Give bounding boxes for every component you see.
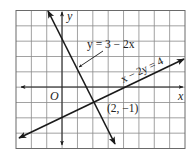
line-1-label: y = 3 − 2x bbox=[87, 38, 135, 51]
x-axis-label: x bbox=[177, 89, 184, 103]
line-x-minus-2y-equals-4 bbox=[19, 59, 184, 138]
origin-label: O bbox=[50, 89, 59, 103]
coordinate-graph: y x O y = 3 − 2x x − 2y = 4 (2, −1) bbox=[0, 0, 195, 158]
intersection-label: (2, −1) bbox=[107, 102, 139, 115]
y-axis-label: y bbox=[66, 9, 73, 23]
line-2-label: x − 2y = 4 bbox=[119, 54, 166, 85]
line-y-equals-3-minus-2x bbox=[48, 11, 115, 144]
label-pointer-arrow bbox=[79, 51, 103, 67]
